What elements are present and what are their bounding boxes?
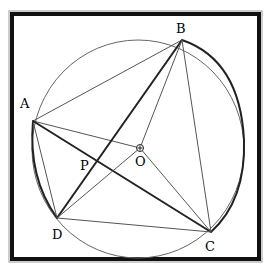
geometry-diagram: A B C D O P bbox=[0, 0, 269, 279]
label-B: B bbox=[176, 21, 186, 36]
frame bbox=[9, 11, 262, 262]
label-D: D bbox=[52, 227, 62, 242]
label-P: P bbox=[80, 158, 89, 173]
label-C: C bbox=[205, 239, 215, 254]
center-marker-icon bbox=[137, 145, 144, 152]
label-A: A bbox=[19, 96, 30, 111]
label-O: O bbox=[135, 154, 146, 169]
